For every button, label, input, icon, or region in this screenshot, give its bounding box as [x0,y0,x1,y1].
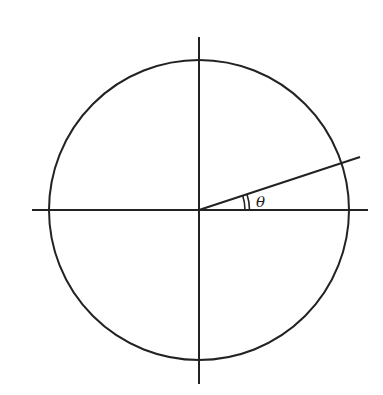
unit-circle-diagram: θ [0,0,383,395]
radial-line [199,157,360,210]
theta-label: θ [256,193,265,211]
angle-arc-inner [243,196,245,210]
angle-arc-outer [247,194,250,210]
